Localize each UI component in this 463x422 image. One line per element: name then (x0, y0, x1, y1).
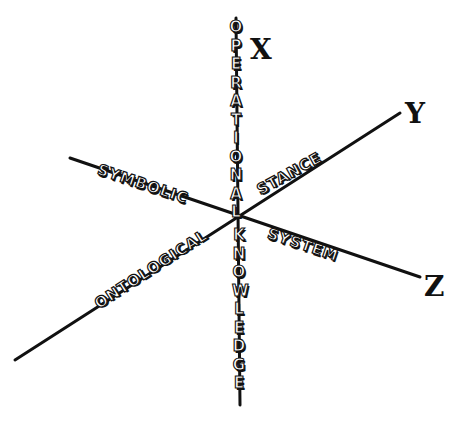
letter: N (232, 245, 246, 264)
letter: O (232, 263, 246, 282)
letter: L (229, 203, 243, 222)
letter: L (232, 300, 246, 319)
letter: E (232, 319, 246, 338)
operational-label: OPERATIONAL (229, 18, 243, 222)
letter: O (229, 18, 243, 37)
letter: T (229, 111, 243, 130)
letter: R (229, 74, 243, 93)
letter: W (232, 282, 246, 301)
letter: E (229, 55, 243, 74)
letter: A (229, 92, 243, 111)
y-axis-label: Y (405, 100, 425, 128)
letter: E (232, 374, 246, 393)
letter: P (229, 37, 243, 56)
letter: I (229, 129, 243, 148)
letter: G (232, 356, 246, 375)
letter: A (229, 185, 243, 204)
x-axis-label: X (250, 36, 272, 64)
z-axis-label: Z (424, 273, 444, 301)
letter: N (229, 166, 243, 185)
knowledge-label: KNOWLEDGE (232, 226, 246, 393)
three-axis-diagram: X Y Z OPERATIONAL KNOWLEDGE SYMBOLIC STA… (0, 0, 463, 422)
letter: O (229, 148, 243, 167)
letter: K (232, 226, 246, 245)
letter: D (232, 337, 246, 356)
